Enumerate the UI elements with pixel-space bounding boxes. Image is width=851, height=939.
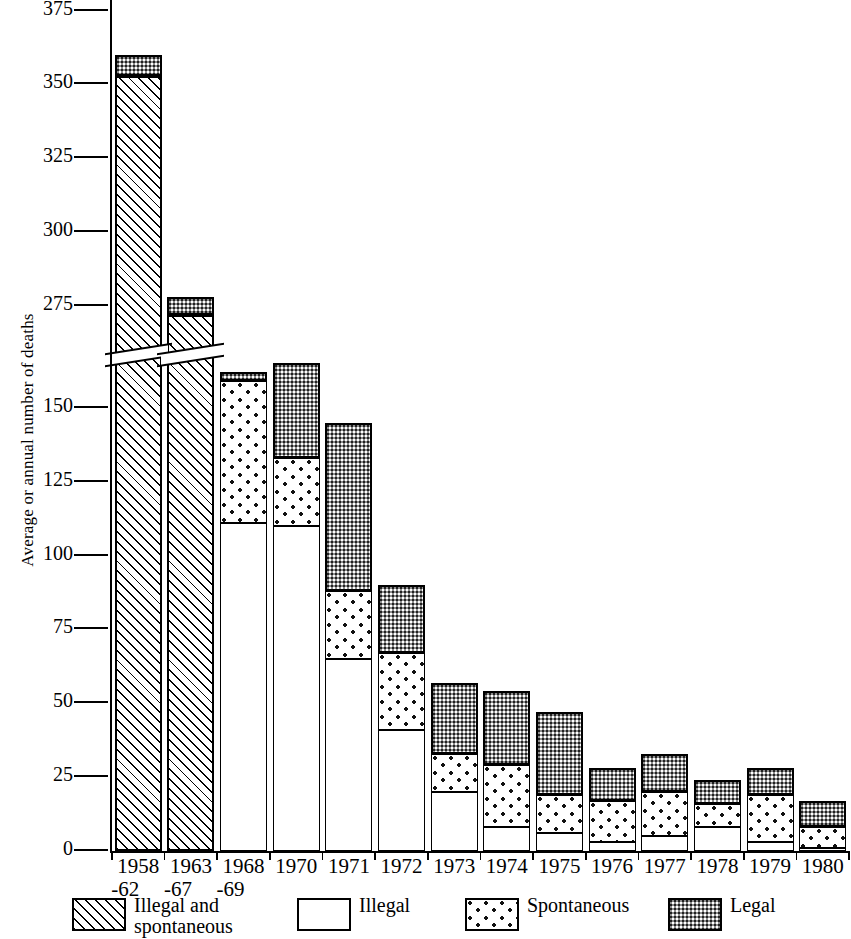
x-label-main: 1974 xyxy=(486,854,528,878)
x-label-main: 1958 xyxy=(117,854,159,878)
bar-segment-illegal xyxy=(378,730,425,851)
x-label-1976: 1976 xyxy=(582,855,642,878)
bar-segment-spont xyxy=(799,827,846,848)
x-label-main: 1978 xyxy=(696,854,738,878)
y-tick-dash xyxy=(74,82,108,84)
y-tick-dash xyxy=(74,480,108,482)
bar-segment-legal xyxy=(694,780,741,804)
bar-1963 xyxy=(167,297,214,851)
y-tick-dash xyxy=(74,304,108,306)
x-label-main: 1979 xyxy=(749,854,791,878)
bar-1973 xyxy=(431,683,478,851)
bar-segment-spont xyxy=(641,792,688,836)
bar-segment-legal xyxy=(115,55,162,76)
x-label-1974: 1974 xyxy=(477,855,537,878)
bar-segment-spont xyxy=(431,754,478,792)
y-tick-label: 75 xyxy=(53,618,73,634)
bar-segment-illegal xyxy=(325,659,372,851)
bar-segment-illegal xyxy=(220,523,267,851)
x-label-main: 1980 xyxy=(802,854,844,878)
y-tick-label: 350 xyxy=(43,73,73,89)
x-label-1971: 1971 xyxy=(319,855,379,878)
bar-segment-spont xyxy=(747,795,794,842)
bar-segment-legal xyxy=(641,754,688,792)
bar-1976 xyxy=(589,768,636,851)
y-tick-150: 150 xyxy=(30,397,108,413)
bar-1977 xyxy=(641,754,688,852)
bar-1968 xyxy=(220,372,267,851)
x-label-main: 1968 xyxy=(223,854,265,878)
bar-1978 xyxy=(694,780,741,851)
bar-segment-illegal xyxy=(483,827,530,851)
x-label-main: 1963 xyxy=(170,854,212,878)
bar-segment-spont xyxy=(273,458,320,526)
bar-segment-illegal xyxy=(747,842,794,851)
bar-segment-illegal xyxy=(273,526,320,851)
legend-label: Illegal xyxy=(359,895,410,916)
x-label-1979: 1979 xyxy=(740,855,800,878)
y-tick-label: 275 xyxy=(43,295,73,311)
legend-swatch-legal xyxy=(668,898,722,931)
bar-segment-illegal xyxy=(641,836,688,851)
y-tick-75: 75 xyxy=(30,618,108,634)
y-axis-line xyxy=(110,0,112,853)
y-tick-dash xyxy=(74,406,108,408)
bar-segment-spont xyxy=(694,804,741,828)
y-tick-label: 125 xyxy=(43,471,73,487)
bar-1971 xyxy=(325,423,372,851)
y-tick-label: 25 xyxy=(53,766,73,782)
bar-segment-legal xyxy=(589,768,636,801)
y-tick-dash xyxy=(74,554,108,556)
bar-segment-illegal xyxy=(589,842,636,851)
x-label-main: 1970 xyxy=(275,854,317,878)
bar-segment-legal xyxy=(799,801,846,828)
x-label-1970: 1970 xyxy=(266,855,326,878)
y-tick-375: 375 xyxy=(30,0,108,16)
y-tick-300: 300 xyxy=(30,221,108,237)
bar-segment-illegal xyxy=(431,792,478,851)
bar-1972 xyxy=(378,585,425,851)
bar-segment-illspont xyxy=(167,315,214,851)
bar-1980 xyxy=(799,801,846,851)
bar-segment-illspont xyxy=(115,76,162,851)
legend-label: Illegal and spontaneous xyxy=(134,895,233,937)
y-tick-label: 375 xyxy=(43,0,73,16)
bar-segment-spont xyxy=(325,591,372,659)
legend-swatch-spont xyxy=(465,898,519,931)
bar-segment-legal xyxy=(378,585,425,653)
x-label-main: 1976 xyxy=(591,854,633,878)
bar-segment-legal xyxy=(536,712,583,795)
x-label-1980: 1980 xyxy=(793,855,851,878)
chart-legend: Illegal and spontaneousIllegalSpontaneou… xyxy=(0,896,851,939)
y-tick-dash xyxy=(74,156,108,158)
bar-segment-legal xyxy=(273,363,320,458)
bar-segment-legal xyxy=(325,423,372,591)
x-label-main: 1977 xyxy=(644,854,686,878)
y-tick-dash xyxy=(74,9,108,11)
y-tick-50: 50 xyxy=(30,692,108,708)
y-tick-dash xyxy=(74,849,108,851)
y-tick-325: 325 xyxy=(30,147,108,163)
y-tick-100: 100 xyxy=(30,545,108,561)
y-tick-label: 100 xyxy=(43,545,73,561)
x-label-main: 1973 xyxy=(433,854,475,878)
bar-segment-legal xyxy=(747,768,794,795)
y-tick-275: 275 xyxy=(30,295,108,311)
bar-segment-legal xyxy=(483,691,530,765)
bar-1979 xyxy=(747,768,794,851)
bar-chart-figure: Average or annual number of deaths 02550… xyxy=(0,0,851,939)
bar-1974 xyxy=(483,691,530,851)
y-tick-label: 325 xyxy=(43,147,73,163)
y-tick-dash xyxy=(74,701,108,703)
bar-segment-legal xyxy=(431,683,478,754)
x-label-main: 1971 xyxy=(328,854,370,878)
legend-label: Spontaneous xyxy=(527,895,629,916)
y-tick-label: 50 xyxy=(53,692,73,708)
bar-segment-spont xyxy=(589,801,636,842)
legend-swatch-illspont xyxy=(72,898,126,931)
x-label-1978: 1978 xyxy=(687,855,747,878)
bar-1975 xyxy=(536,712,583,851)
bar-segment-spont xyxy=(378,653,425,730)
x-label-main: 1975 xyxy=(538,854,580,878)
x-label-1975: 1975 xyxy=(529,855,589,878)
